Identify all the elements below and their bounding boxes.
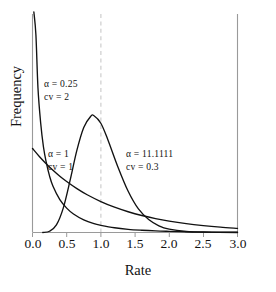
x-tick-label-6: 3.0	[230, 236, 247, 252]
x-tick-label-4: 2.0	[161, 236, 178, 252]
annotation-alpha-025-line2: cv = 2	[44, 91, 78, 104]
x-tick-label-2: 1.0	[93, 236, 110, 252]
annotation-alpha-111111-line2: cv = 0.3	[126, 161, 173, 174]
y-axis-label: Frequency	[8, 37, 25, 157]
x-tick-label-5: 2.5	[195, 236, 212, 252]
annotation-alpha-1-line1: α = 1	[48, 148, 73, 161]
annotation-alpha-1: α = 1 cv = 1	[48, 148, 73, 173]
x-tick-label-1: 0.5	[59, 236, 76, 252]
annotation-alpha-025-line1: α = 0.25	[44, 78, 78, 91]
x-tick-label-0: 0.0	[25, 236, 42, 252]
x-axis-label: Rate	[0, 262, 276, 279]
gamma-density-chart: 0.0 0.5 1.0 1.5 2.0 2.5 3.0 Rate Frequen…	[0, 0, 276, 292]
curves-group	[33, 12, 238, 233]
axes-group	[33, 14, 239, 233]
annotation-alpha-025: α = 0.25 cv = 2	[44, 78, 78, 103]
annotation-alpha-111111: α = 11.1111 cv = 0.3	[126, 148, 173, 173]
x-tick-label-3: 1.5	[127, 236, 144, 252]
annotation-alpha-1-line2: cv = 1	[48, 161, 73, 174]
annotation-alpha-111111-line1: α = 11.1111	[126, 148, 173, 161]
curve-alpha-025	[34, 12, 238, 232]
